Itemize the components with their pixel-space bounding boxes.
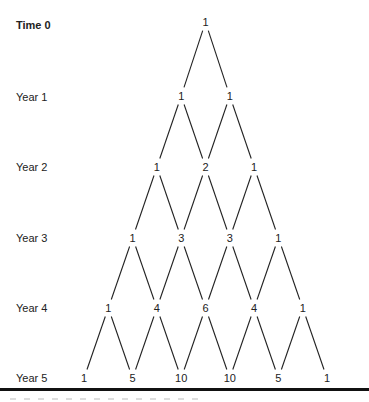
- tree-node: 10: [224, 372, 236, 384]
- tree-edge: [233, 317, 251, 370]
- tree-edge: [233, 176, 252, 230]
- tree-edge: [111, 247, 129, 300]
- tree-edge: [281, 247, 299, 300]
- tree-edge: [111, 317, 129, 370]
- tree-node: 1: [154, 161, 160, 173]
- tree-node: 1: [202, 16, 208, 28]
- tree-node: 3: [227, 232, 233, 244]
- tree-node: 2: [202, 161, 208, 173]
- tree-edge: [184, 176, 203, 230]
- tree-edge: [184, 31, 203, 88]
- tree-node: 3: [178, 232, 184, 244]
- tree-node: 1: [275, 232, 281, 244]
- tree-edge: [160, 105, 179, 159]
- tree-edge: [208, 105, 227, 159]
- tree-edge: [257, 317, 275, 370]
- tree-node: 1: [105, 302, 111, 314]
- tree-node: 1: [130, 232, 136, 244]
- clipped-caption: [0, 396, 369, 402]
- tree-node: 4: [154, 302, 160, 314]
- tree-node: 1: [300, 302, 306, 314]
- tree-edge: [306, 317, 324, 370]
- tree-node: 10: [175, 372, 187, 384]
- tree-node: 1: [178, 90, 184, 102]
- tree-node: 1: [81, 372, 87, 384]
- tree-node: 5: [130, 372, 136, 384]
- tree-edge: [136, 176, 155, 230]
- tree-node: 4: [251, 302, 257, 314]
- tree-edge: [209, 317, 227, 370]
- tree-edge: [233, 105, 252, 159]
- tree-edge: [257, 176, 276, 230]
- tree-node: 5: [275, 372, 281, 384]
- tree-edge: [136, 317, 154, 370]
- tree-edge: [208, 31, 227, 88]
- tree-node: 1: [227, 90, 233, 102]
- tree-edge: [233, 247, 251, 300]
- tree-node: 1: [324, 372, 330, 384]
- tree-edge: [209, 247, 227, 300]
- tree-edge: [208, 176, 227, 230]
- binomial-tree-diagram: 11112113311464115101051: [0, 0, 369, 402]
- tree-edge: [257, 247, 275, 300]
- tree-edge: [184, 247, 202, 300]
- tree-node: 1: [251, 161, 257, 173]
- tree-edge: [160, 247, 178, 300]
- tree-edge: [184, 317, 202, 370]
- tree-edge: [87, 317, 105, 370]
- tree-node: 6: [202, 302, 208, 314]
- tree-edge: [160, 176, 179, 230]
- tree-edge: [160, 317, 178, 370]
- tree-edge: [136, 247, 154, 300]
- bottom-divider: [0, 388, 369, 391]
- tree-edge: [184, 105, 203, 159]
- tree-edge: [281, 317, 299, 370]
